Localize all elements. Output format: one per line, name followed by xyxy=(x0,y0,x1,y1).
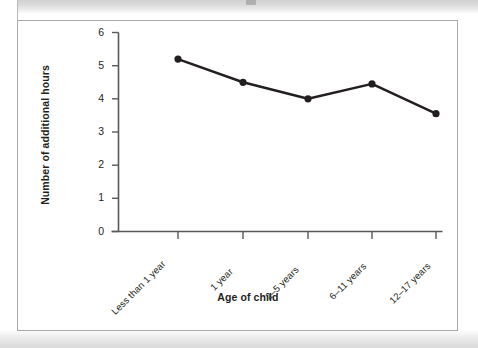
scan-band-bottom xyxy=(0,331,478,348)
y-tick-label-4: 4 xyxy=(82,92,104,104)
x-axis-ticks xyxy=(178,232,436,240)
y-tick-label-5: 5 xyxy=(82,59,104,71)
y-tick-label-1: 1 xyxy=(82,191,104,203)
data-point-markers xyxy=(174,56,439,118)
data-point xyxy=(368,80,375,87)
axis-lines xyxy=(112,33,443,232)
y-tick-label-2: 2 xyxy=(82,158,104,170)
data-point xyxy=(239,79,246,86)
y-axis-ticks xyxy=(112,33,119,232)
data-line xyxy=(178,59,436,114)
y-tick-label-6: 6 xyxy=(82,26,104,38)
y-axis-title: Number of additional hours xyxy=(39,50,51,220)
scan-page-gutter xyxy=(0,0,17,331)
figure-frame: 6 5 4 3 2 1 0 Less than 1 year 1 year 2–… xyxy=(17,20,458,331)
data-point xyxy=(432,110,439,117)
scan-band-top xyxy=(0,0,478,13)
scan-page-spine xyxy=(17,0,18,20)
y-tick-label-3: 3 xyxy=(82,125,104,137)
scan-artifact-smudge xyxy=(246,0,256,5)
data-point xyxy=(304,95,311,102)
y-tick-label-0: 0 xyxy=(82,225,104,237)
x-axis-title: Age of child xyxy=(168,291,328,303)
data-point xyxy=(174,56,181,63)
